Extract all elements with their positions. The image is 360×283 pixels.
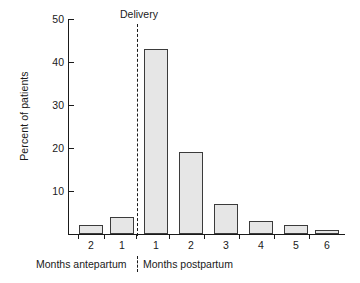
x-tick-label-postpartum-6: 6 (314, 240, 340, 251)
x-tick-label-antepartum-2: 2 (78, 240, 104, 251)
y-tick-10 (68, 191, 74, 192)
x-tick-1 (104, 234, 105, 239)
y-tick-label-40: 40 (24, 57, 64, 68)
x-tick-label-antepartum-1: 1 (109, 240, 135, 251)
x-tick-label-postpartum-5: 5 (283, 240, 309, 251)
y-tick-20 (68, 148, 74, 149)
x-tick-5 (274, 234, 275, 239)
x-tick-label-postpartum-3: 3 (213, 240, 239, 251)
y-tick-label-30: 30 (24, 100, 64, 111)
y-tick-50 (68, 19, 74, 20)
group-label-postpartum: Months postpartum (143, 258, 233, 270)
bar-chart: Percent of patients 50 40 30 20 10 2 1 1… (0, 0, 360, 283)
bar-postpartum-6 (315, 230, 339, 234)
y-tick-label-10: 10 (24, 186, 64, 197)
x-tick-4 (239, 234, 240, 239)
y-tick-label-20: 20 (24, 143, 64, 154)
bar-postpartum-1 (144, 49, 168, 234)
bar-postpartum-5 (284, 225, 308, 234)
x-tick-6 (309, 234, 310, 239)
y-tick-label-50: 50 (24, 14, 64, 25)
group-label-antepartum: Months antepartum (36, 258, 126, 270)
bar-postpartum-2 (179, 152, 203, 234)
delivery-label: Delivery (104, 8, 174, 20)
x-tick-0 (78, 234, 79, 239)
x-axis-line (68, 234, 345, 235)
delivery-dashed-line (137, 24, 138, 236)
bar-postpartum-4 (249, 221, 273, 234)
y-axis-line (68, 19, 69, 235)
bar-antepartum-1 (110, 217, 134, 234)
x-tick-label-postpartum-4: 4 (248, 240, 274, 251)
x-tick-label-postpartum-1: 1 (143, 240, 169, 251)
group-divider-dashed-line (137, 256, 138, 272)
x-tick-label-postpartum-2: 2 (178, 240, 204, 251)
y-tick-30 (68, 105, 74, 106)
bar-postpartum-3 (214, 204, 238, 234)
bar-antepartum-2 (79, 225, 103, 234)
x-tick-2 (169, 234, 170, 239)
x-tick-3 (204, 234, 205, 239)
y-tick-40 (68, 62, 74, 63)
